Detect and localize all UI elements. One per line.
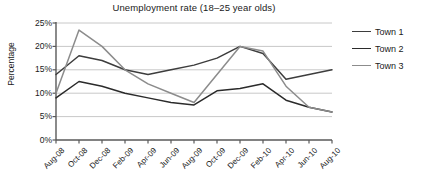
legend-swatch-icon xyxy=(352,48,371,49)
legend-item[interactable]: Town 3 xyxy=(352,57,436,74)
legend-label: Town 2 xyxy=(375,44,404,54)
legend-item[interactable]: Town 1 xyxy=(352,23,436,40)
legend-item[interactable]: Town 2 xyxy=(352,40,436,57)
chart-container: Unemployment rate (18–25 year olds) Perc… xyxy=(0,0,436,186)
legend-swatch-icon xyxy=(352,65,371,66)
legend-label: Town 1 xyxy=(375,27,404,37)
data-series-lines xyxy=(56,30,332,112)
legend-label: Town 3 xyxy=(375,61,404,71)
legend-swatch-icon xyxy=(352,31,371,32)
chart-legend: Town 1Town 2Town 3 xyxy=(352,23,436,74)
series-line xyxy=(56,46,332,79)
series-line xyxy=(56,82,332,112)
series-line xyxy=(56,30,332,112)
